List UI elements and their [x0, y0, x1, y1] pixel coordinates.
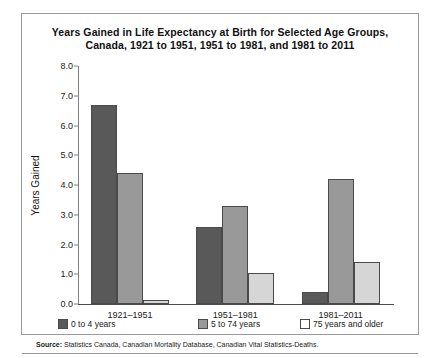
bar — [354, 262, 380, 304]
legend-swatch — [58, 319, 68, 329]
y-axis-tick: 4.0 — [42, 180, 73, 190]
legend-item: 0 to 4 years — [58, 319, 198, 329]
x-axis-line — [78, 304, 394, 305]
chart-figure: Years Gained in Life Expectancy at Birth… — [21, 13, 419, 335]
chart-legend: 0 to 4 years5 to 74 years75 years and ol… — [58, 319, 398, 329]
bar — [222, 206, 248, 304]
source-note: Source: Statistics Canada, Canadian Mort… — [36, 341, 318, 348]
chart-title-line-2: Canada, 1921 to 1951, 1951 to 1981, and … — [22, 39, 418, 52]
source-text: Statistics Canada, Canadian Mortality Da… — [62, 341, 318, 348]
y-axis-tick: 3.0 — [42, 210, 73, 220]
y-axis-tick: 0.0 — [42, 299, 73, 309]
y-axis-tick: 2.0 — [42, 240, 73, 250]
y-axis-tick: 5.0 — [42, 150, 73, 160]
bar — [196, 227, 222, 304]
bar — [248, 273, 274, 304]
legend-label: 75 years and older — [313, 319, 383, 329]
legend-item: 75 years and older — [300, 319, 383, 329]
y-axis-tick: 7.0 — [42, 91, 73, 101]
bar — [117, 173, 143, 304]
bar — [328, 179, 354, 304]
bar — [91, 105, 117, 304]
legend-label: 5 to 74 years — [211, 319, 260, 329]
bar-group: 1951–1981 — [183, 66, 288, 304]
y-axis-tick: 6.0 — [42, 121, 73, 131]
bar-group: 1921–1951 — [78, 66, 183, 304]
legend-item: 5 to 74 years — [198, 319, 300, 329]
legend-label: 0 to 4 years — [71, 319, 115, 329]
chart-title: Years Gained in Life Expectancy at Birth… — [22, 26, 418, 52]
source-label: Source: — [36, 341, 62, 348]
legend-swatch — [198, 319, 208, 329]
bar — [143, 300, 169, 304]
legend-swatch — [300, 319, 310, 329]
chart-title-line-1: Years Gained in Life Expectancy at Birth… — [52, 26, 388, 38]
bar-group: 1981–2011 — [289, 66, 394, 304]
y-axis-tick: 8.0 — [42, 61, 73, 71]
bar — [302, 292, 328, 304]
plot-area: Years Gained 8.07.06.05.04.03.02.01.00.0… — [78, 66, 394, 305]
source-divider — [22, 353, 418, 354]
y-axis-tick: 1.0 — [42, 269, 73, 279]
